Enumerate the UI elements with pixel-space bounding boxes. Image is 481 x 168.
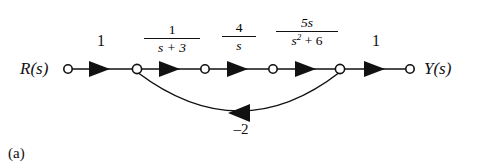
figure-caption: (a): [8, 146, 25, 161]
input-node: [64, 65, 72, 73]
signal-flow-graph-figure: R(s) Y(s) 1 1 s + 3 4 s 5s s2 + 6 1 –2 (…: [0, 0, 481, 168]
node-3: [201, 65, 209, 73]
branch-gain-4-numerator: 5s: [276, 15, 338, 31]
branch-arrowhead-1: [89, 61, 110, 77]
branch-gain-1: 1: [93, 33, 109, 49]
branch-gain-2: 1 s + 3: [144, 22, 200, 55]
branch-gain-3: 4 s: [222, 20, 256, 53]
output-signal-label: Y(s): [424, 60, 451, 77]
branch-gain-4-den-rest: + 6: [301, 33, 322, 48]
branch-gain-4: 5s s2 + 6: [276, 15, 338, 48]
feedback-arrowhead: [228, 104, 250, 122]
branch-gain-3-numerator: 4: [222, 20, 256, 36]
branch-gain-2-denominator: s + 3: [144, 39, 200, 55]
branch-arrowhead-4: [295, 61, 316, 77]
node-5: [335, 64, 344, 73]
node-2: [132, 64, 141, 73]
output-node: [406, 65, 414, 73]
branch-gain-5: 1: [368, 33, 384, 49]
node-4: [269, 65, 277, 73]
branch-gain-2-numerator: 1: [144, 22, 200, 38]
branch-arrowhead-2: [159, 61, 180, 77]
feedback-gain-label: –2: [228, 122, 254, 137]
branch-arrowhead-3: [227, 61, 248, 77]
branch-arrowhead-5: [364, 61, 385, 77]
branch-gain-4-denominator: s2 + 6: [276, 32, 338, 48]
feedback-path-arc: [137, 72, 340, 111]
branch-gain-3-denominator: s: [222, 37, 256, 53]
input-signal-label: R(s): [20, 60, 48, 77]
